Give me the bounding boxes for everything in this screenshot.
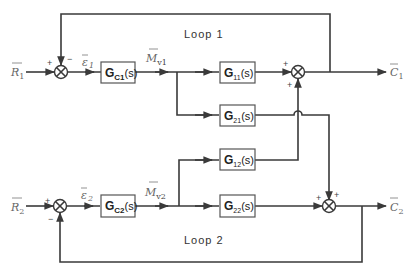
block-gc1: GC1(s) xyxy=(101,62,137,83)
svg-text:C2: C2 xyxy=(390,201,404,216)
svg-text:C1: C1 xyxy=(390,66,404,81)
label-mv1: Mv1 xyxy=(145,49,167,67)
g12-branch-line xyxy=(179,160,219,206)
label-e1: ε1 xyxy=(82,55,94,70)
loop-1-label: Loop 1 xyxy=(184,28,224,40)
g21-output-line xyxy=(255,111,329,200)
loop-1-wiring xyxy=(26,14,386,200)
sum2-plus-sign: + xyxy=(45,196,50,206)
svg-text:ε2: ε2 xyxy=(81,189,93,203)
block-g11: G11(s) xyxy=(220,62,255,83)
loop-2-label: Loop 2 xyxy=(184,234,224,246)
block-g21: G21(s) xyxy=(220,105,255,126)
block-diagram: + − + − + + + + GC1(s) GC2(s) G11(s) G21… xyxy=(0,0,408,275)
sum1-plus-sign: + xyxy=(47,58,52,68)
label-c2: C2 xyxy=(390,198,404,216)
sum4-plus-left: + xyxy=(316,193,321,203)
sum1-minus-sign: − xyxy=(67,54,72,64)
g21-branch-line xyxy=(177,72,219,115)
label-mv2: Mv2 xyxy=(144,182,166,201)
label-e2: ε2 xyxy=(81,188,93,203)
g12-output-line xyxy=(255,79,298,160)
svg-text:R1: R1 xyxy=(10,66,24,81)
summing-junction-4 xyxy=(323,200,336,213)
block-g22: G22(s) xyxy=(220,195,255,217)
block-g12: G12(s) xyxy=(220,149,255,170)
sum4-plus-top: + xyxy=(334,190,339,200)
summing-junction-2 xyxy=(54,200,67,213)
sum3-plus-left: + xyxy=(283,59,288,69)
label-r1: R1 xyxy=(10,63,24,81)
summing-junction-1 xyxy=(55,66,68,79)
sum3-plus-bottom: + xyxy=(287,80,292,90)
svg-text:ε1: ε1 xyxy=(82,56,94,70)
summing-junction-3 xyxy=(292,66,305,79)
svg-text:Mv2: Mv2 xyxy=(144,186,166,201)
label-c1: C1 xyxy=(390,64,404,81)
label-r2: R2 xyxy=(10,198,24,216)
svg-text:Mv1: Mv1 xyxy=(145,52,167,67)
block-gc2: GC2(s) xyxy=(101,195,137,217)
sum2-minus-sign: − xyxy=(48,214,53,224)
svg-text:R2: R2 xyxy=(10,201,24,216)
